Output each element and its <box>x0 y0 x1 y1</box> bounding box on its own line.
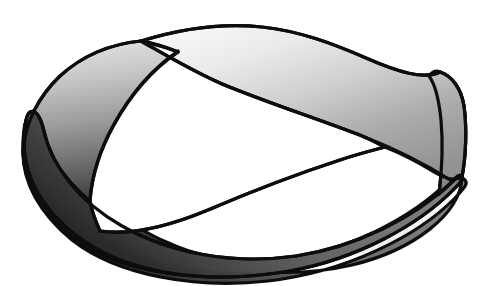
mobius-strip-figure: Möbius strip Black and white line drawin… <box>0 0 494 286</box>
mobius-strip-drawing: Möbius strip Black and white line drawin… <box>0 0 494 286</box>
